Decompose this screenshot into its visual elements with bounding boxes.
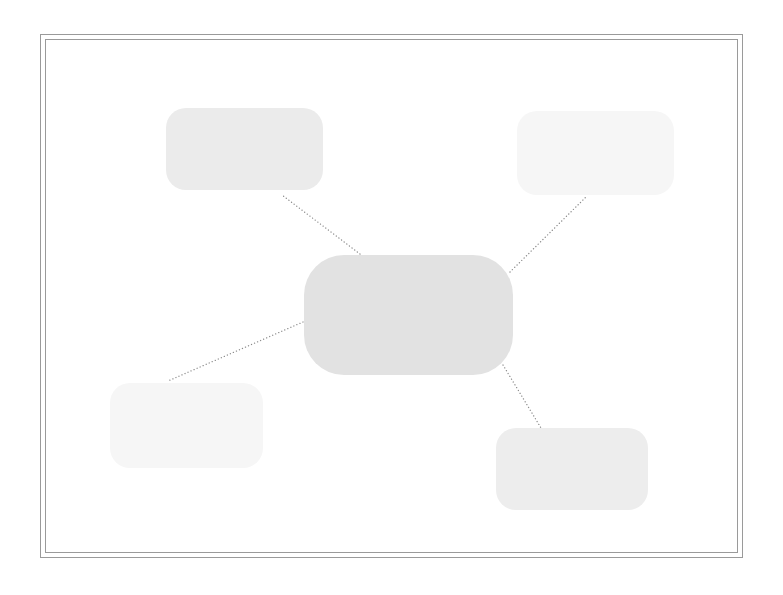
central-node[interactable] — [304, 255, 513, 375]
branch-node-top-left[interactable] — [166, 108, 323, 190]
branch-node-bottom-left[interactable] — [110, 383, 263, 468]
branch-node-top-right[interactable] — [517, 111, 674, 195]
branch-node-bottom-right[interactable] — [496, 428, 648, 510]
